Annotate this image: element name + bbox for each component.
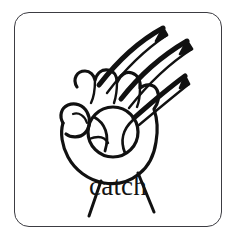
pictogram-card: catch [14,12,222,227]
ball-icon [88,107,138,157]
hand-outline [61,70,158,184]
motion-arrow-3-icon [134,76,189,125]
caption-label: catch [15,173,221,200]
